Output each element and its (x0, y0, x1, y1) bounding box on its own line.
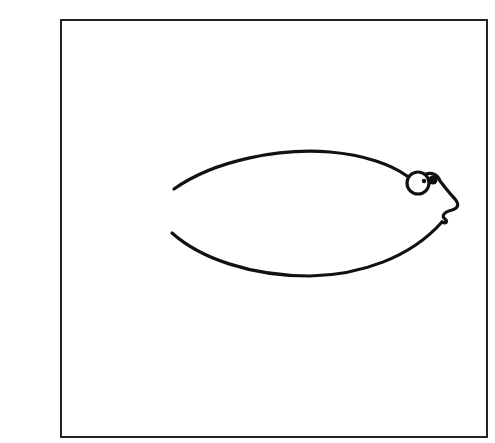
fish-upper-body-curve (174, 151, 407, 189)
fish-pupil-highlight (422, 179, 426, 183)
fish-pupil-icon (429, 176, 438, 185)
fish-drawing (0, 0, 495, 443)
fish-lower-body-curve (172, 222, 442, 276)
